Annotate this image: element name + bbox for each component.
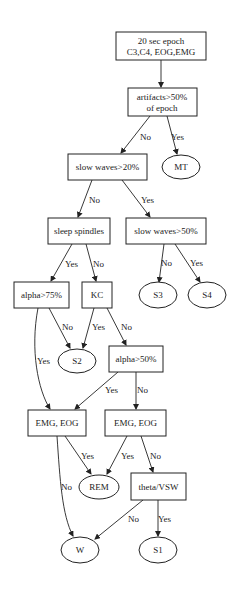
edge-label: No: [93, 259, 104, 269]
edge-label: Yes: [190, 258, 204, 268]
svg-text:slow waves>20%: slow waves>20%: [76, 162, 140, 172]
node-epoch: 20 sec epoch C3,C4, EOG,EMG: [116, 32, 206, 60]
decision-tree-diagram: No Yes No Yes Yes No No Yes Yes No Yes N…: [0, 0, 239, 589]
svg-text:alpha>50%: alpha>50%: [115, 354, 157, 364]
node-s3: S3: [139, 282, 177, 308]
edge-label: No: [140, 132, 151, 142]
edge-label: No: [137, 385, 148, 395]
edge-label: Yes: [171, 132, 185, 142]
edge-label: No: [128, 514, 139, 524]
svg-text:S1: S1: [153, 545, 163, 555]
edge-label: No: [161, 258, 172, 268]
edge-label: No: [150, 451, 161, 461]
svg-text:MT: MT: [174, 162, 188, 172]
svg-text:S2: S2: [72, 356, 82, 366]
node-artifacts: artifacts>50% of epoch: [128, 88, 197, 116]
node-rem: REM: [79, 475, 119, 499]
edge-label: Yes: [121, 451, 135, 461]
node-alpha75: alpha>75%: [14, 282, 69, 308]
edge-label: Yes: [81, 451, 95, 461]
svg-text:KC: KC: [91, 290, 104, 300]
node-theta: theta/VSW: [131, 473, 186, 500]
edge-labels: No Yes No Yes Yes No No Yes Yes No Yes N…: [37, 132, 204, 524]
edge-label: Yes: [37, 356, 51, 366]
node-emgeog-right: EMG, EOG: [105, 410, 166, 436]
edge-label: Yes: [92, 322, 106, 332]
svg-text:EMG, EOG: EMG, EOG: [114, 418, 157, 428]
node-w: W: [61, 537, 99, 563]
node-s2: S2: [58, 349, 96, 373]
edge-label: Yes: [158, 514, 172, 524]
node-emgeog-left: EMG, EOG: [28, 410, 86, 436]
svg-text:S3: S3: [153, 290, 163, 300]
node-mt: MT: [162, 155, 200, 179]
edge-label: No: [62, 322, 73, 332]
svg-text:C3,C4, EOG,EMG: C3,C4, EOG,EMG: [127, 47, 196, 57]
svg-text:of epoch: of epoch: [146, 103, 178, 113]
svg-text:EMG, EOG: EMG, EOG: [36, 418, 79, 428]
svg-text:20 sec epoch: 20 sec epoch: [138, 36, 185, 46]
edge-label: No: [89, 195, 100, 205]
edge-label: Yes: [141, 195, 155, 205]
svg-text:sleep spindles: sleep spindles: [54, 226, 105, 236]
svg-text:S4: S4: [202, 290, 212, 300]
node-kc: KC: [82, 282, 112, 308]
node-spindles: sleep spindles: [48, 218, 110, 244]
edge-label: No: [61, 482, 72, 492]
svg-text:alpha>75%: alpha>75%: [21, 290, 63, 300]
edge-label: No: [121, 322, 132, 332]
node-sw20: slow waves>20%: [68, 154, 147, 180]
node-s1: S1: [139, 537, 177, 563]
node-alpha50: alpha>50%: [109, 346, 163, 372]
edge-label: Yes: [65, 259, 79, 269]
svg-text:theta/VSW: theta/VSW: [139, 482, 179, 492]
node-sw50: slow waves>50%: [126, 218, 206, 244]
svg-text:slow waves>50%: slow waves>50%: [134, 226, 198, 236]
edge-label: Yes: [105, 385, 119, 395]
node-s4: S4: [188, 282, 226, 308]
svg-text:W: W: [76, 545, 85, 555]
svg-text:artifacts>50%: artifacts>50%: [137, 92, 188, 102]
svg-text:REM: REM: [89, 482, 109, 492]
